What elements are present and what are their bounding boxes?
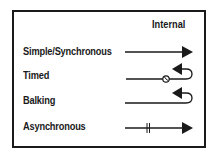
solid-arrow-icon [125, 46, 193, 58]
balking-arrow-icon [125, 87, 192, 103]
legend-symbols [0, 0, 215, 156]
asynchronous-arrow-icon [125, 122, 193, 134]
timed-arrow-icon [126, 63, 192, 82]
clock-icon [163, 76, 169, 82]
